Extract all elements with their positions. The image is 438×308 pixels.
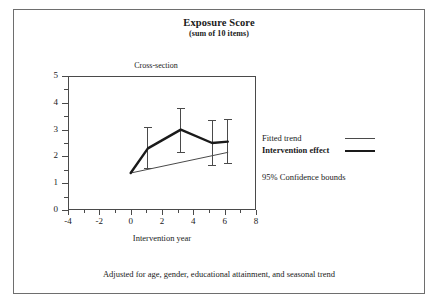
legend-label-intervention-effect: Intervention effect [262,145,329,155]
y-tick-label-4: 4 [36,97,58,107]
x-minor-tick-0 [84,210,85,213]
legend-row-fitted-trend: Fitted trend [262,133,422,145]
chart-title: Exposure Score [0,17,438,28]
x-tick-label-4: 4 [181,216,205,226]
y-tick-3 [62,130,68,131]
y-minor-tick-3 [64,116,68,117]
y-tick-label-0: 0 [36,204,58,214]
y-tick-4 [62,103,68,104]
x-minor-tick-3 [178,210,179,213]
y-tick-label-1: 1 [36,177,58,187]
y-tick-1 [62,183,68,184]
chart-subtitle: (sum of 10 items) [0,29,438,38]
legend-swatch-fitted-trend [345,138,375,139]
y-tick-label-3: 3 [36,124,58,134]
x-tick-label-5: 6 [213,216,237,226]
x-tick-2 [131,210,132,215]
x-tick-label-3: 2 [150,216,174,226]
y-minor-tick-1 [64,170,68,171]
x-tick-label-2: 0 [119,216,143,226]
panel-label: Cross-section [86,61,226,70]
y-tick-label-2: 2 [36,150,58,160]
exposure-score-figure: Exposure Score (sum of 10 items) Cross-s… [0,0,438,308]
x-tick-label-1: -2 [87,216,111,226]
x-minor-tick-5 [240,210,241,213]
x-axis-title: Intervention year [68,233,256,243]
y-tick-label-5: 5 [36,70,58,80]
x-minor-tick-4 [209,210,210,213]
x-minor-tick-2 [146,210,147,213]
y-minor-tick-2 [64,143,68,144]
x-tick-4 [193,210,194,215]
legend-row-intervention-effect: Intervention effect [262,145,422,157]
plot-canvas [68,76,256,210]
legend-label-confidence-bounds: 95% Confidence bounds [262,172,346,182]
x-tick-3 [162,210,163,215]
y-tick-5 [62,76,68,77]
x-tick-5 [225,210,226,215]
legend-swatch-intervention-effect [345,150,375,152]
figure-footnote: Adjusted for age, gender, educational at… [13,269,425,279]
x-tick-0 [68,210,69,215]
x-minor-tick-1 [115,210,116,213]
confidence-bounds-group [144,109,232,168]
y-minor-tick-4 [64,89,68,90]
series-line-fitted-trend [131,152,228,173]
y-tick-2 [62,156,68,157]
x-tick-label-0: -4 [56,216,80,226]
data-series-group [131,130,228,173]
series-line-intervention-effect [131,130,228,173]
x-tick-label-6: 8 [244,216,268,226]
x-tick-1 [99,210,100,215]
y-minor-tick-0 [64,197,68,198]
chart-legend: Fitted trend Intervention effect [262,133,422,157]
x-tick-6 [256,210,257,215]
legend-label-fitted-trend: Fitted trend [262,133,301,143]
